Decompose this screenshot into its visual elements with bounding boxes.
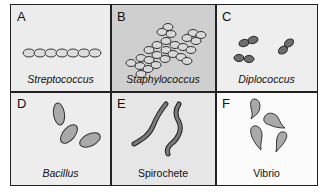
panel-staphylococcus: B bbox=[111, 5, 215, 91]
panel-spirochete: E Spirochete bbox=[111, 92, 215, 185]
panel-caption: Bacillus bbox=[11, 167, 110, 179]
divider bbox=[10, 91, 318, 93]
divider bbox=[110, 4, 112, 186]
panel-caption: Streptococcus bbox=[11, 73, 110, 85]
panel-vibrio: F Vibrio bbox=[216, 92, 317, 185]
panel-caption: Staphylococcus bbox=[111, 73, 215, 85]
panel-diplococcus: C Diplococcus bbox=[216, 5, 317, 91]
panel-caption: Vibrio bbox=[216, 167, 317, 179]
divider bbox=[215, 4, 217, 186]
panel-caption: Diplococcus bbox=[216, 73, 317, 85]
panel-bacillus: D Bacillus bbox=[11, 92, 110, 185]
panel-caption: Spirochete bbox=[111, 167, 215, 179]
panel-streptococcus: A Streptococcus bbox=[11, 5, 110, 91]
